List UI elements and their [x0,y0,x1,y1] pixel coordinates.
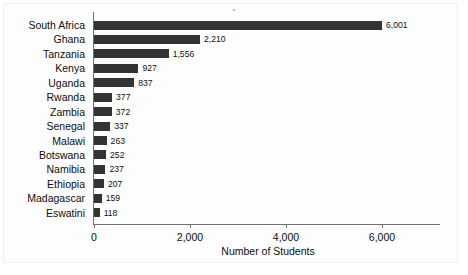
bar-value-label: 837 [138,78,152,88]
bar-row: Namibia237 [0,163,468,177]
category-label: Tanzania [0,48,85,60]
bar-row: Ethiopia207 [0,178,468,192]
bar [94,49,169,58]
category-label: Uganda [0,77,85,89]
bar [94,64,138,73]
bar-value-label: 118 [104,208,118,218]
bar [94,93,112,102]
bar [94,208,100,217]
bar-value-label: 1,556 [173,49,195,59]
bar-row: South Africa6,001 [0,19,468,33]
bar [94,21,382,30]
bar-value-label: 252 [110,150,124,160]
category-label: Madagascar [0,192,85,204]
bar-row: Malawi263 [0,135,468,149]
x-axis-tick [382,224,383,228]
x-axis-tick-label: 0 [91,231,97,243]
category-label: South Africa [0,19,85,31]
x-axis-tick-label: 2,000 [177,231,203,243]
bar-value-label: 207 [108,179,122,189]
bar-row: Botswana252 [0,149,468,163]
category-label: Botswana [0,149,85,161]
category-label: Eswatini [0,207,85,219]
bar-row: Kenya927 [0,62,468,76]
bar-rows: South Africa6,001Ghana2,210Tanzania1,556… [0,19,468,221]
bar-row: Senegal337 [0,120,468,134]
bar-row: Tanzania1,556 [0,48,468,62]
scan-speck [233,9,235,11]
x-axis-tick [190,224,191,228]
bar [94,165,105,174]
bar [94,78,134,87]
bar [94,136,107,145]
x-axis-tick [94,224,95,228]
bar-row: Rwanda377 [0,91,468,105]
bar [94,150,106,159]
bar-value-label: 6,001 [386,20,408,30]
bar-row: Uganda837 [0,77,468,91]
category-label: Ghana [0,33,85,45]
x-axis-title-label: Number of Students [221,245,314,257]
bar-row: Madagascar159 [0,192,468,206]
category-label: Malawi [0,135,85,147]
bar-row: Ghana2,210 [0,33,468,47]
bar-value-label: 2,210 [204,34,226,44]
category-label: Senegal [0,120,85,132]
x-axis-title: Number of Students [0,245,468,257]
x-axis-tick-label: 4,000 [273,231,299,243]
bar-value-label: 159 [106,193,120,203]
bar-value-label: 377 [116,92,130,102]
category-label: Namibia [0,163,85,175]
x-axis-line [93,224,440,225]
bar-row: Zambia372 [0,106,468,120]
bar-value-label: 372 [116,107,130,117]
category-label: Rwanda [0,91,85,103]
horizontal-bar-chart: South Africa6,001Ghana2,210Tanzania1,556… [0,0,468,275]
category-label: Zambia [0,106,85,118]
bar [94,122,110,131]
x-axis-tick [286,224,287,228]
chart-screenshot: South Africa6,001Ghana2,210Tanzania1,556… [0,0,468,275]
bar [94,35,200,44]
bar [94,107,112,116]
category-label: Kenya [0,62,85,74]
category-label: Ethiopia [0,178,85,190]
bar-value-label: 927 [142,63,156,73]
bar [94,194,102,203]
bar-value-label: 237 [109,164,123,174]
x-axis-tick-label: 6,000 [369,231,395,243]
bar-row: Eswatini118 [0,207,468,221]
bar-value-label: 263 [111,136,125,146]
bar [94,179,104,188]
bar-value-label: 337 [114,121,128,131]
